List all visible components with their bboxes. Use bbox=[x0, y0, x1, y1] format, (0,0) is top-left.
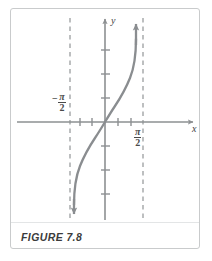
left-asymptote-denominator: 2 bbox=[58, 103, 65, 113]
caption-separator-rule bbox=[11, 222, 199, 223]
right-asymptote-label: π2 bbox=[134, 127, 141, 148]
figure-container: −π2 π2 y x FIGURE 7.8 bbox=[0, 0, 212, 261]
right-asymptote-denominator: 2 bbox=[134, 138, 141, 148]
left-asymptote-label: −π2 bbox=[52, 92, 66, 113]
tangent-graph-svg bbox=[0, 0, 212, 225]
figure-caption: FIGURE 7.8 bbox=[21, 231, 82, 243]
left-asymptote-minus-sign: − bbox=[52, 94, 58, 104]
left-asymptote-fraction: π2 bbox=[58, 92, 65, 113]
x-axis-label: x bbox=[192, 124, 196, 134]
right-asymptote-fraction: π2 bbox=[134, 127, 141, 148]
plot-area: −π2 π2 y x bbox=[0, 0, 212, 225]
y-axis-label: y bbox=[111, 16, 115, 26]
